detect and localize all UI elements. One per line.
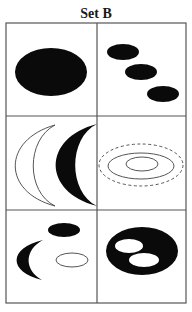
cell-4 [99,144,183,186]
outline-crescent [15,125,55,206]
cell-2 [107,44,179,102]
white-hole-ellipse-2 [129,253,159,267]
large-black-ellipse [106,227,178,275]
small-black-ellipse-3 [147,86,179,102]
small-black-ellipse-2 [125,64,157,80]
small-black-ellipse-1 [107,44,139,60]
black-crescent [56,124,97,206]
cell-5 [17,223,88,280]
large-black-ellipse [15,48,87,96]
shapes-layer [15,44,183,280]
small-black-ellipse [48,223,80,237]
cell-1 [15,48,87,96]
cell-3 [15,124,97,206]
small-outline-ellipse [56,253,88,267]
small-black-crescent [17,240,43,280]
dashed-outer-ellipse [99,144,183,186]
shape-grid-figure [0,0,192,312]
cell-6 [106,227,178,275]
white-hole-ellipse-1 [115,239,143,253]
inner-outline-ellipse [126,157,158,171]
